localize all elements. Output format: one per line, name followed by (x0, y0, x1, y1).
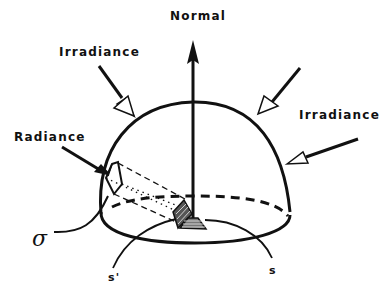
irradiance-label-left: Irradiance (59, 45, 140, 59)
irradiance-label-right: Irradiance (299, 108, 380, 122)
radiance-label: Radiance (14, 130, 86, 144)
irradiance-arrow-left (99, 66, 134, 116)
aperture-sigma (106, 162, 122, 194)
radiance-arrow (62, 147, 112, 176)
s-prime-label: s' (108, 271, 120, 284)
diagram-canvas: Normal Irradiance Irradiance Radiance σ … (0, 0, 387, 296)
dome-outline (101, 102, 290, 214)
sigma-label: σ (32, 226, 47, 251)
normal-label: Normal (170, 9, 226, 23)
dome-base-back (112, 196, 288, 216)
irradiance-arrow-upper-right (258, 68, 300, 114)
s-label: s (269, 264, 277, 277)
irradiance-arrow-lower-right (287, 139, 358, 164)
